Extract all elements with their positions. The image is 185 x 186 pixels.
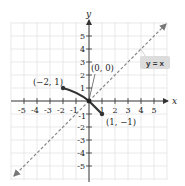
y-tick-label: -2	[77, 123, 85, 132]
line-label: y = x	[146, 59, 165, 68]
y-tick-label: 2	[80, 71, 85, 80]
y-tick-label: 4	[80, 45, 85, 54]
y-tick-label: -5	[77, 162, 85, 171]
x-tick-label: -4	[31, 106, 39, 115]
y-tick-label: 1	[80, 84, 85, 93]
x-tick-label: 2	[112, 106, 117, 115]
x-tick-label: 5	[151, 106, 156, 115]
y-tick-label: -3	[77, 136, 85, 145]
x-tick-label: -2	[57, 106, 65, 115]
y-tick-label: -4	[77, 149, 85, 158]
point-label: (0, 0)	[91, 63, 114, 73]
y-axis-label: y	[85, 9, 92, 19]
graph-figure: -5 -4 -3 -2 -1 1 2 3 4 5 5 4 3 2 1 -1 -2…	[0, 0, 185, 186]
y-tick-label: 3	[80, 58, 85, 67]
y-tick-label: -1	[78, 112, 86, 121]
x-tick-label: -3	[44, 106, 52, 115]
x-tick-label: 4	[138, 106, 143, 115]
x-axis-label: x	[172, 96, 177, 106]
x-tick-label: -5	[18, 106, 26, 115]
x-tick-label: -1	[70, 106, 78, 115]
point-marker	[100, 112, 104, 116]
point-label: (1, −1)	[106, 117, 136, 127]
x-tick-label: 3	[125, 106, 130, 115]
y-tick-label: 5	[80, 32, 85, 41]
point-label: (−2, 1)	[33, 77, 63, 87]
